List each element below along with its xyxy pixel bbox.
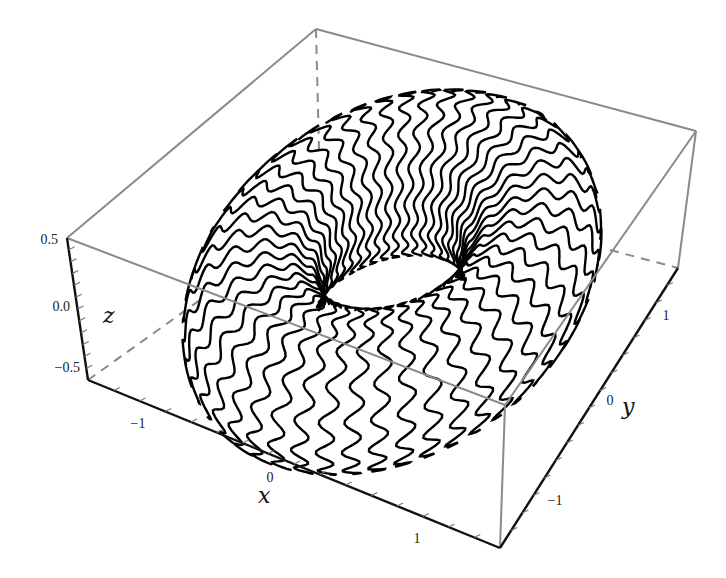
coil-strand	[411, 299, 442, 427]
coil-strand	[428, 94, 507, 259]
coil-strand	[411, 89, 463, 255]
coil-strand	[437, 278, 516, 386]
axis-edges	[67, 238, 678, 548]
y-tick-0: 0	[607, 393, 614, 408]
y-tick-neg1: −1	[548, 493, 563, 508]
coil-strand	[600, 224, 601, 239]
coil-strand	[493, 386, 513, 420]
coil-strand	[419, 293, 468, 415]
coil-strand	[427, 287, 493, 402]
coil-strand	[251, 301, 341, 432]
z-tick-neg0.5: −0.5	[55, 360, 80, 375]
y-tick-labels: −1 0 1	[548, 308, 670, 508]
coil-strand	[371, 306, 393, 442]
box-hidden-edges	[88, 29, 678, 380]
axis-ticks	[69, 247, 673, 538]
coil-strand	[342, 446, 360, 474]
x-tick-1: 1	[414, 531, 421, 546]
torus-coil-curve	[183, 89, 602, 474]
z-tick-labels: 0.5 0.0 −0.5	[41, 232, 81, 375]
coil-strand	[326, 114, 372, 270]
x-tick-neg1: −1	[131, 416, 146, 431]
y-tick-1: 1	[663, 308, 670, 323]
coil-strand	[191, 377, 200, 403]
coil-strand	[394, 436, 413, 467]
coil-strand	[369, 442, 387, 471]
coil-strand	[444, 268, 537, 369]
coil-strand	[183, 318, 184, 321]
x-tick-labels: −1 0 1	[131, 416, 421, 546]
z-tick-0.0: 0.0	[53, 299, 71, 314]
z-axis-label: z	[102, 303, 115, 328]
coil-strand	[247, 432, 271, 464]
coil-strand	[316, 446, 337, 474]
x-axis-label: x	[258, 483, 271, 508]
coil-strand	[200, 394, 211, 419]
z-tick-0.5: 0.5	[41, 232, 59, 247]
y-axis-label: y	[621, 394, 635, 419]
coil-strand	[470, 402, 490, 434]
torus-coil-3d-plot: 0.5 0.0 −0.5 −1 0 1 −1 0 1 z x y	[0, 0, 726, 578]
coil-strand	[445, 416, 465, 448]
coil-strand	[420, 427, 440, 458]
